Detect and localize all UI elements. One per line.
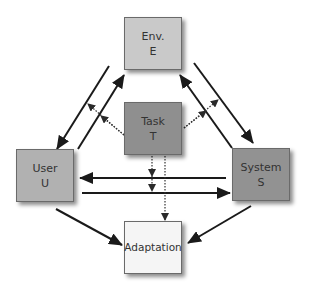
- node-adaptation: Adaptation: [124, 221, 182, 274]
- node-env-label: Env.: [141, 29, 164, 44]
- arrow-env-to-user: [57, 66, 109, 149]
- node-user: User U: [16, 149, 74, 202]
- node-system-symbol: S: [258, 175, 265, 190]
- node-user-symbol: U: [41, 176, 49, 191]
- arrow-user-to-env: [78, 75, 124, 149]
- node-adaptation-label: Adaptation: [124, 240, 181, 255]
- node-env-symbol: E: [150, 44, 157, 59]
- node-env: Env. E: [124, 17, 182, 70]
- node-task: Task T: [124, 102, 182, 155]
- node-task-symbol: T: [150, 129, 157, 144]
- dotted-task-to-env-user-inner: [101, 116, 124, 135]
- dotted-task-to-env-system-inner: [184, 111, 206, 128]
- node-system-label: System: [240, 160, 281, 175]
- arrow-env-to-system: [194, 63, 253, 143]
- arrow-system-to-adaptation: [188, 206, 251, 243]
- arrow-user-to-adaptation: [56, 209, 122, 245]
- node-user-label: User: [32, 161, 57, 176]
- node-system: System S: [232, 148, 290, 201]
- node-task-label: Task: [141, 114, 165, 129]
